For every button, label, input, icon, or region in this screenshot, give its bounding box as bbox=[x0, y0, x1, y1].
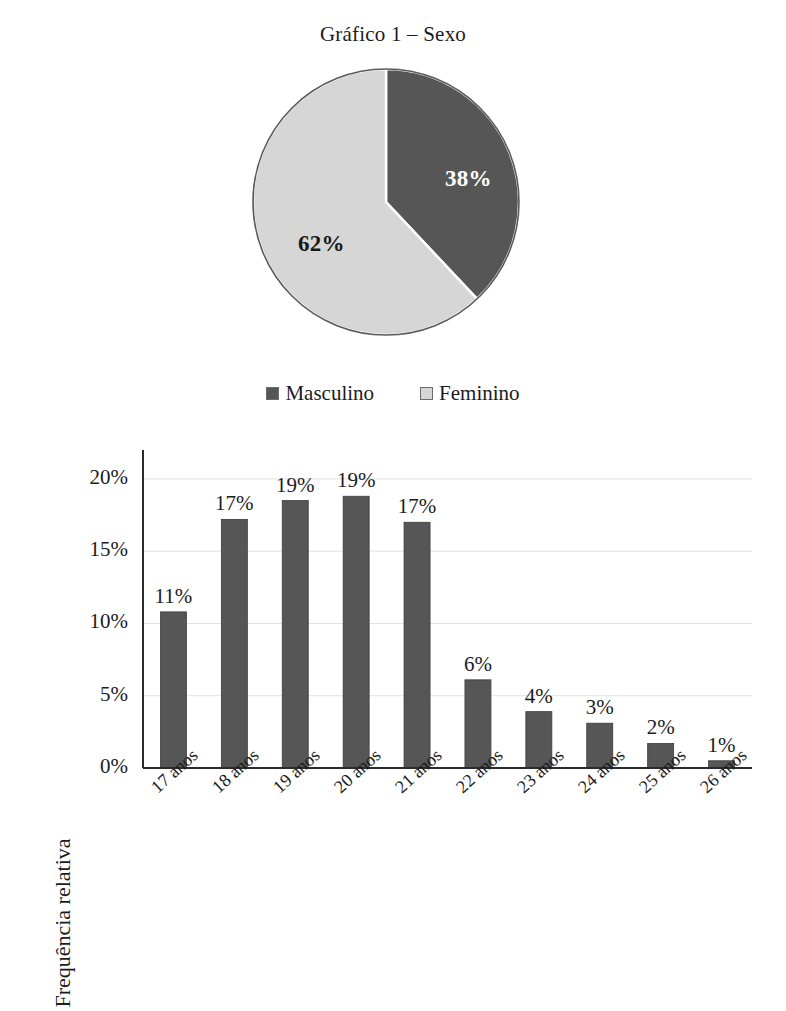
pie-chart: 38% 62% bbox=[250, 66, 522, 338]
pie-chart-legend: Masculino Feminino bbox=[0, 381, 786, 406]
bar-21-anos bbox=[404, 522, 430, 768]
pie-chart-title: Gráfico 1 – Sexo bbox=[0, 22, 786, 47]
y-tick-label: 20% bbox=[52, 465, 128, 490]
bar-18-anos bbox=[221, 519, 247, 768]
y-tick-label: 10% bbox=[52, 609, 128, 634]
bar-value-label: 1% bbox=[682, 733, 762, 758]
legend-label-feminino: Feminino bbox=[439, 381, 520, 406]
pie-chart-svg bbox=[250, 66, 522, 338]
legend-item-masculino: Masculino bbox=[266, 381, 374, 406]
legend-swatch-icon-feminino bbox=[420, 387, 433, 400]
legend-swatch-icon-masculino bbox=[266, 387, 279, 400]
pie-slice-label-feminino: 62% bbox=[298, 231, 345, 257]
bar-value-label: 6% bbox=[438, 652, 518, 677]
legend-item-feminino: Feminino bbox=[420, 381, 520, 406]
legend-label-masculino: Masculino bbox=[285, 381, 374, 406]
bar-value-label: 11% bbox=[133, 584, 213, 609]
y-tick-label: 0% bbox=[52, 754, 128, 779]
y-tick-label: 5% bbox=[52, 682, 128, 707]
bar-19-anos bbox=[282, 501, 308, 768]
pie-slice-label-masculino: 38% bbox=[445, 166, 492, 192]
bar-20-anos bbox=[343, 496, 369, 768]
bar-value-label: 19% bbox=[316, 468, 396, 493]
bar-chart: Frequência relativa 0%5%10%15%20% 11%17%… bbox=[0, 430, 786, 882]
bar-value-label: 17% bbox=[377, 494, 457, 519]
bar-17-anos bbox=[160, 612, 186, 768]
y-tick-label: 15% bbox=[52, 537, 128, 562]
